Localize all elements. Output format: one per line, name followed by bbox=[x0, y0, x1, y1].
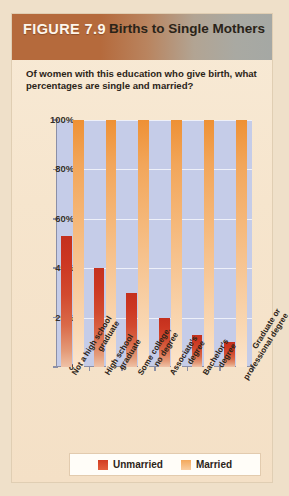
married-swatch-icon bbox=[181, 460, 191, 470]
chart-legend: Unmarried Married bbox=[70, 454, 260, 475]
gridline bbox=[57, 219, 252, 220]
gridline bbox=[57, 169, 252, 170]
x-axis-labels: Not a high school graduateHigh school gr… bbox=[12, 366, 272, 466]
y-axis-tick-label: 60% bbox=[28, 213, 74, 224]
bar-married-0 bbox=[73, 120, 84, 367]
figure-card: FIGURE 7.9 Births to Single Mothers Of w… bbox=[12, 14, 272, 482]
gridline bbox=[57, 268, 252, 269]
chart-area: 020%40%60%80%100% Not a high school grad… bbox=[12, 14, 272, 482]
y-axis-tick-label: 80% bbox=[28, 163, 74, 174]
bar-married-2 bbox=[138, 120, 149, 367]
legend-item-married: Married bbox=[181, 459, 232, 470]
bar-married-4 bbox=[204, 120, 215, 367]
y-axis-tick-label: 100% bbox=[28, 114, 74, 125]
plot-background bbox=[56, 120, 252, 367]
gridline bbox=[57, 318, 252, 319]
legend-item-unmarried: Unmarried bbox=[98, 459, 163, 470]
unmarried-swatch-icon bbox=[98, 460, 108, 470]
legend-label-married: Married bbox=[196, 459, 232, 470]
bar-married-5 bbox=[236, 120, 247, 367]
bar-unmarried-0 bbox=[61, 236, 72, 367]
gridline bbox=[57, 120, 252, 121]
legend-label-unmarried: Unmarried bbox=[113, 459, 163, 470]
